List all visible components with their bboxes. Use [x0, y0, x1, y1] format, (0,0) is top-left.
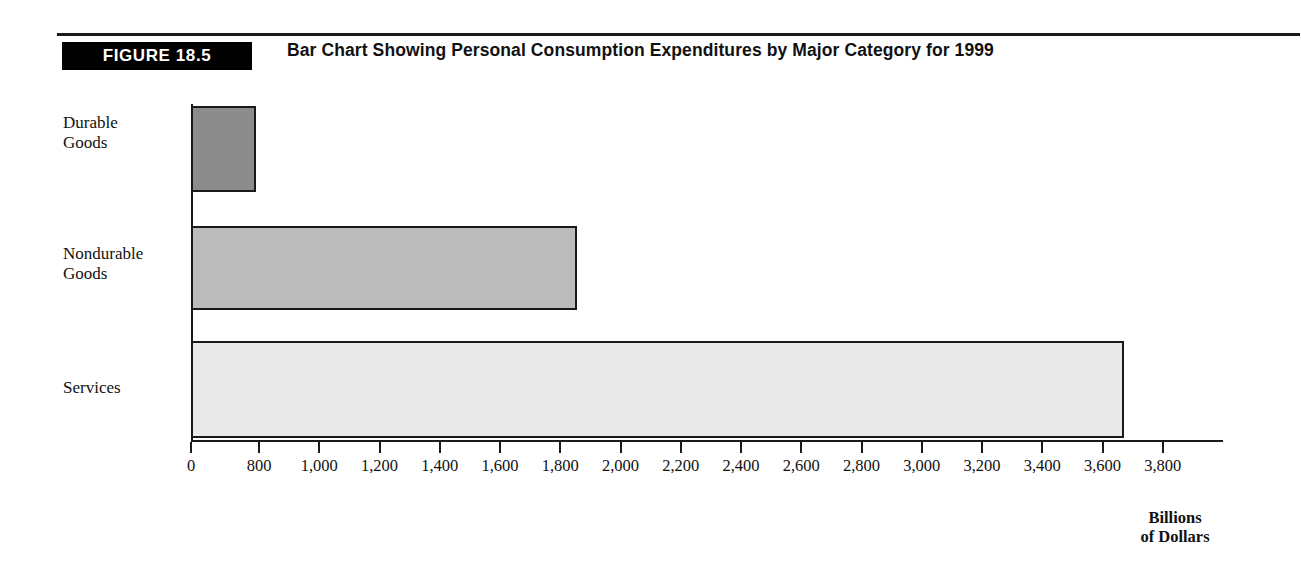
bar-services	[191, 341, 1124, 438]
bar-durable-goods	[191, 106, 256, 192]
x-axis-unit-label: Billions of Dollars	[1110, 508, 1240, 546]
x-axis-tick-label: 3,800	[1144, 456, 1181, 476]
x-axis-tick-label: 2,600	[783, 456, 820, 476]
x-axis-tick	[318, 442, 320, 453]
category-label-line: Durable	[63, 113, 188, 133]
category-label-services: Services	[63, 378, 188, 398]
x-axis-tick-label: 3,600	[1084, 456, 1121, 476]
x-axis-tick-label: 2,000	[602, 456, 639, 476]
x-axis-tick	[559, 442, 561, 453]
x-axis-tick	[1162, 442, 1164, 453]
x-axis-tick-label: 3,200	[963, 456, 1000, 476]
x-axis-tick	[921, 442, 923, 453]
x-axis-tick	[499, 442, 501, 453]
bar-nondurable-goods	[191, 226, 577, 310]
x-axis-tick	[1041, 442, 1043, 453]
x-axis-tick	[379, 442, 381, 453]
category-label-line: Nondurable	[63, 244, 188, 264]
category-label-nondurable-goods: NondurableGoods	[63, 244, 188, 284]
x-axis-tick-label: 1,000	[301, 456, 338, 476]
x-axis-tick-label: 800	[247, 456, 272, 476]
x-axis-tick-label: 2,400	[722, 456, 759, 476]
category-label-durable-goods: DurableGoods	[63, 113, 188, 153]
x-axis-tick	[861, 442, 863, 453]
x-axis-tick-label: 1,800	[542, 456, 579, 476]
x-axis-tick	[680, 442, 682, 453]
x-axis-tick	[258, 442, 260, 453]
category-label-line: Goods	[63, 264, 188, 284]
x-axis-tick-label: 1,600	[481, 456, 518, 476]
category-label-line: Goods	[63, 133, 188, 153]
x-axis-line	[191, 440, 1223, 442]
x-axis-tick	[740, 442, 742, 453]
x-axis-tick-label: 0	[187, 456, 195, 476]
x-axis-tick-label: 2,200	[662, 456, 699, 476]
x-axis-tick	[1102, 442, 1104, 453]
x-axis-tick	[439, 442, 441, 453]
x-axis-tick	[190, 442, 192, 453]
x-axis-tick-label: 1,200	[361, 456, 398, 476]
x-axis-tick	[620, 442, 622, 453]
bar-chart: DurableGoodsNondurableGoodsServices 0800…	[0, 0, 1301, 578]
axis-unit-line-1: Billions	[1110, 508, 1240, 527]
x-axis-tick-label: 2,800	[843, 456, 880, 476]
axis-unit-line-2: of Dollars	[1110, 527, 1240, 546]
x-axis-tick-label: 3,000	[903, 456, 940, 476]
x-axis-tick	[800, 442, 802, 453]
x-axis-tick-label: 3,400	[1024, 456, 1061, 476]
x-axis-tick	[981, 442, 983, 453]
x-axis-tick-label: 1,400	[421, 456, 458, 476]
